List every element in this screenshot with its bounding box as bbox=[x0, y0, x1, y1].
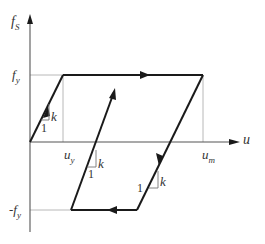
arrow-right-icon bbox=[140, 71, 150, 79]
diagram-canvas bbox=[0, 0, 265, 244]
slope-triangles bbox=[41, 104, 158, 188]
arrow-left-icon bbox=[107, 206, 117, 214]
x-axis-label: u bbox=[243, 133, 250, 147]
y-axis-label: fS bbox=[11, 15, 19, 32]
reloading bbox=[71, 92, 114, 210]
slope-k-label-2: k bbox=[98, 157, 104, 170]
slope-triangle-3 bbox=[149, 171, 158, 188]
um-label: um bbox=[202, 148, 215, 165]
neg-fy-label: -fy bbox=[9, 203, 21, 220]
axes bbox=[30, 20, 232, 232]
slope-1-label-2: 1 bbox=[88, 168, 94, 180]
slope-1-label-1: 1 bbox=[41, 122, 47, 134]
slope-k-label-1: k bbox=[51, 110, 57, 123]
slope-k-label-3: k bbox=[160, 175, 166, 188]
fy-label: fy bbox=[12, 68, 20, 85]
y-axis-arrow-icon bbox=[27, 14, 33, 24]
hysteresis-diagram: fS u fy -fy uy um k 1 k 1 k 1 bbox=[0, 0, 265, 244]
uy-label: uy bbox=[64, 148, 75, 165]
slope-1-label-3: 1 bbox=[137, 182, 143, 194]
x-axis-arrow-icon bbox=[229, 139, 240, 145]
arrow-up-icon bbox=[109, 88, 116, 100]
